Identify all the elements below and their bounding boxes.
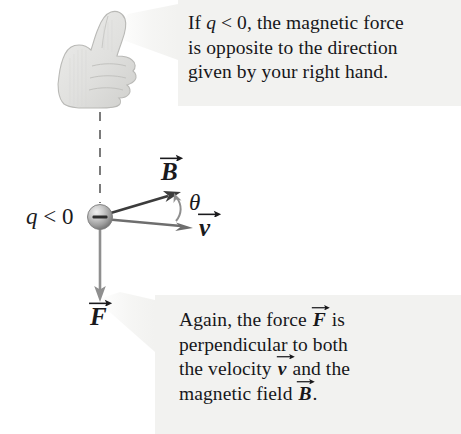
callout-top-charge-symbol: q: [206, 12, 216, 33]
negative-charge-sphere: [88, 205, 113, 230]
callout-bottom-line1-post: is: [327, 309, 345, 330]
callout-top-line-1: If q < 0, the magnetic force: [188, 11, 455, 36]
angle-theta-arc: [174, 193, 182, 221]
magnetic-field-vector-label: B: [160, 158, 179, 186]
right-hand-thumbs-up-icon: [58, 11, 136, 108]
callout-bottom-line-2: perpendicular to both: [179, 333, 455, 358]
callout-top-line1-pre: If: [188, 12, 206, 33]
callout-bottom-line-1: Again, the force F is: [179, 308, 455, 333]
callout-top-line1-post: < 0, the magnetic force: [216, 12, 404, 33]
force-symbol: F: [90, 303, 107, 330]
charge-symbol: q: [26, 204, 38, 229]
velocity-vector-arrow: [104, 219, 193, 231]
callout-bottom-line3-pre: the velocity: [179, 358, 277, 379]
callout-bottom-line-4: magnetic field B.: [179, 382, 455, 407]
callout-top-line-3: given by your right hand.: [188, 60, 455, 85]
angle-theta-label: θ: [189, 190, 200, 216]
callout-bottom-line-3: the velocity v and the: [179, 357, 455, 382]
force-vector-label: F: [89, 303, 108, 331]
magnetic-field-symbol: B: [161, 158, 178, 185]
callout-bottom-velocity-symbol: v: [278, 358, 287, 379]
callout-negative-charge-note: If q < 0, the magnetic force is opposite…: [178, 0, 461, 106]
force-vector-arrow: [94, 225, 106, 302]
charge-condition: < 0: [38, 204, 74, 229]
callout-bottom-line3-post: and the: [287, 358, 350, 379]
callout-bottom-field-symbol: B: [298, 383, 311, 404]
callout-bottom-line1-pre: Again, the force: [179, 309, 312, 330]
velocity-symbol: v: [199, 214, 210, 241]
physics-figure: q < 0 B v F θ If q < 0, the magnetic for…: [0, 0, 461, 434]
magnetic-field-vector-arrow: [104, 191, 181, 215]
callout-bottom-line4-post: .: [313, 383, 318, 404]
charge-sign-label: q < 0: [26, 204, 73, 230]
velocity-vector-label: v: [198, 214, 211, 242]
callout-bottom-force-symbol: F: [313, 309, 326, 330]
callout-perpendicularity-note: Again, the force F is perpendicular to b…: [155, 295, 461, 434]
callout-top-line-2: is opposite to the direction: [188, 36, 455, 61]
callout-bottom-line4-pre: magnetic field: [179, 383, 297, 404]
